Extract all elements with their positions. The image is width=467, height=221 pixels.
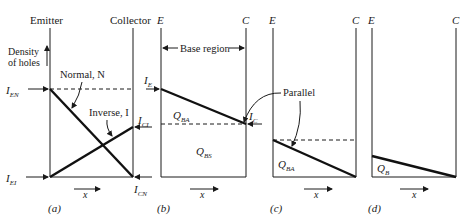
transistor-charge-diagram: Emitter Collector Density of holes IEN I…: [0, 0, 467, 221]
inverse-pointer-icon: [107, 120, 112, 136]
panel-c: E C Parallel QBA x (c): [244, 14, 360, 215]
normal-profile-line: [50, 89, 133, 177]
iei-label: IEI: [5, 172, 17, 187]
x-axis-label: x: [313, 189, 319, 200]
panel-caption: (c): [270, 202, 283, 215]
ie-label: IE: [143, 74, 153, 89]
ic-label: IC: [248, 110, 258, 125]
qba-label: QBA: [278, 158, 295, 173]
panel-caption: (b): [157, 202, 170, 215]
parallel-label: Parallel: [283, 87, 315, 98]
normal-pointer-icon: [72, 82, 82, 108]
x-axis-label: x: [82, 189, 88, 200]
icn-label: ICN: [133, 183, 147, 198]
qbs-label: QBS: [196, 145, 212, 160]
base-region-label: Base region: [180, 43, 231, 54]
x-axis-label: x: [411, 189, 417, 200]
e-label: E: [268, 14, 276, 26]
x-axis-label: x: [199, 189, 205, 200]
c-label: C: [352, 14, 360, 26]
panel-caption: (d): [368, 202, 381, 215]
qba-label: QBA: [173, 109, 190, 124]
panel-b: E C Base region IE IC QBA QBS x (b): [143, 14, 262, 215]
collector-label: Collector: [110, 14, 151, 26]
panel-caption: (a): [48, 202, 61, 215]
e-label: E: [367, 14, 375, 26]
ien-label: IEN: [5, 84, 19, 99]
inverse-label: Inverse, I: [89, 107, 129, 118]
e-label: E: [156, 14, 164, 26]
y-axis-label-holes: of holes: [8, 57, 40, 68]
y-axis-label-density: Density: [8, 46, 39, 57]
parallel-pointer-c-icon: [292, 101, 300, 146]
panel-a: Emitter Collector Density of holes IEN I…: [5, 14, 152, 215]
c-label: C: [242, 14, 250, 26]
c-label: C: [452, 14, 460, 26]
panel-d: E C QB x (d): [367, 14, 460, 215]
emitter-label: Emitter: [30, 14, 63, 26]
qb-label: QB: [377, 162, 390, 177]
normal-label: Normal, N: [60, 69, 105, 80]
